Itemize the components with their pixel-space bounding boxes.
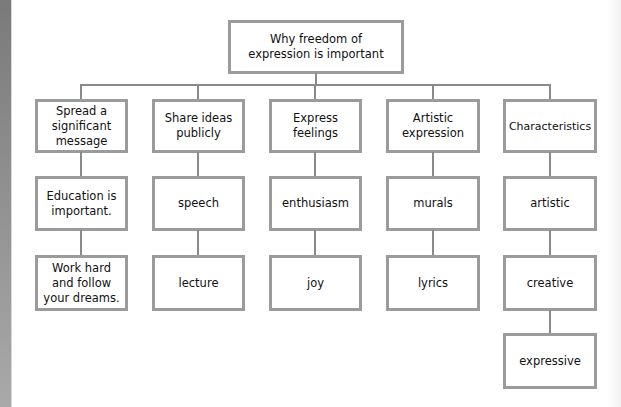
column-4-child-1-label: murals bbox=[413, 196, 452, 211]
column-1-child-2: Work hard and follow your dreams. bbox=[35, 255, 128, 311]
column-2-node: Share ideas publicly bbox=[152, 99, 245, 153]
left-edge-divider bbox=[11, 0, 12, 407]
column-5-node: Characteristics bbox=[503, 99, 597, 153]
column-4-connector-2 bbox=[432, 230, 434, 256]
column-3-child-1-label: enthusiasm bbox=[282, 196, 349, 211]
drop-line-4 bbox=[432, 84, 434, 100]
column-3-connector-1 bbox=[314, 152, 316, 177]
column-5-label: Characteristics bbox=[509, 119, 591, 134]
column-3-connector-2 bbox=[314, 230, 316, 256]
column-5-child-2: creative bbox=[503, 255, 597, 311]
column-3-child-2: joy bbox=[269, 255, 362, 311]
column-5-child-1-label: artistic bbox=[530, 196, 570, 211]
column-4-node: Artistic expression bbox=[386, 99, 480, 153]
drop-line-2 bbox=[197, 84, 199, 100]
column-3-child-1: enthusiasm bbox=[269, 176, 362, 231]
branch-bar bbox=[81, 84, 551, 86]
column-3-child-2-label: joy bbox=[307, 276, 324, 291]
column-5-child-2-label: creative bbox=[527, 276, 574, 291]
column-5-child-1: artistic bbox=[503, 176, 597, 231]
column-5-connector-3 bbox=[549, 310, 551, 334]
column-1-connector-1 bbox=[80, 152, 82, 177]
drop-line-1 bbox=[80, 84, 82, 100]
column-5-child-3: expressive bbox=[503, 333, 597, 389]
column-4-child-1: murals bbox=[386, 176, 480, 231]
column-3-label: Express feelings bbox=[286, 111, 346, 141]
column-4-child-2-label: lyrics bbox=[418, 276, 448, 291]
column-2-connector-1 bbox=[197, 152, 199, 177]
column-2-connector-2 bbox=[197, 230, 199, 256]
column-2-label: Share ideas publicly bbox=[164, 111, 234, 141]
column-5-connector-2 bbox=[549, 230, 551, 256]
column-4-connector-1 bbox=[432, 152, 434, 177]
column-5-child-3-label: expressive bbox=[519, 354, 581, 369]
column-4-child-2: lyrics bbox=[386, 255, 480, 311]
column-1-node: Spread a significant message bbox=[35, 99, 128, 153]
column-1-connector-2 bbox=[80, 230, 82, 256]
drop-line-5 bbox=[549, 84, 551, 100]
column-3-node: Express feelings bbox=[269, 99, 362, 153]
column-1-label: Spread a significant message bbox=[42, 104, 121, 149]
left-edge-strip bbox=[0, 0, 11, 407]
column-5-connector-1 bbox=[549, 152, 551, 177]
column-1-child-1: Education is important. bbox=[35, 176, 128, 231]
column-4-label: Artistic expression bbox=[398, 111, 468, 141]
drop-line-3 bbox=[314, 84, 316, 100]
right-edge-strip bbox=[607, 0, 621, 407]
column-2-child-1-label: speech bbox=[178, 196, 219, 211]
column-2-child-2: lecture bbox=[152, 255, 245, 311]
root-node: Why freedom of expression is important bbox=[228, 20, 404, 74]
root-node-label: Why freedom of expression is important bbox=[241, 32, 391, 62]
column-1-child-2-label: Work hard and follow your dreams. bbox=[42, 261, 121, 306]
column-2-child-2-label: lecture bbox=[179, 276, 219, 291]
column-2-child-1: speech bbox=[152, 176, 245, 231]
column-1-child-1-label: Education is important. bbox=[42, 189, 121, 219]
